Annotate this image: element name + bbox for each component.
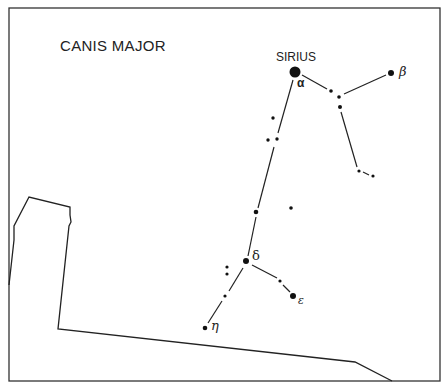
star (223, 294, 226, 297)
star (357, 169, 360, 172)
star (329, 89, 333, 93)
alpha-label: α (297, 76, 304, 90)
star (225, 272, 228, 275)
constellation-diagram (0, 0, 447, 384)
star-eta (203, 326, 208, 331)
eta-label: η (211, 318, 219, 333)
epsilon-label: ε (298, 294, 304, 307)
star (275, 137, 278, 140)
constellation-title: CANIS MAJOR (60, 37, 166, 54)
star (254, 210, 259, 215)
star (371, 174, 374, 177)
chart-frame (9, 8, 440, 381)
delta-label: δ (252, 248, 260, 263)
star (278, 279, 281, 282)
constellation-lines (208, 75, 386, 323)
sirius-label: SIRIUS (276, 50, 316, 64)
beta-label: β (399, 64, 407, 79)
star (271, 116, 274, 119)
star (338, 105, 342, 109)
stars (203, 67, 394, 331)
star (337, 95, 341, 99)
star-delta (243, 258, 249, 264)
star (266, 138, 269, 141)
star-beta (388, 70, 394, 76)
constellation-boundary (9, 197, 392, 381)
star-epsilon (290, 293, 296, 299)
star (225, 265, 228, 268)
star (289, 206, 293, 210)
